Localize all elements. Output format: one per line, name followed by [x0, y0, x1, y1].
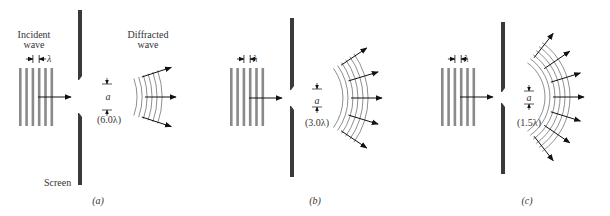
slit-width-label: (3.0λ)	[305, 117, 329, 129]
slit-width-label: (1.5λ)	[517, 117, 541, 129]
incident-wavefront-bar	[19, 68, 22, 126]
incident-wavefront-bar	[236, 68, 239, 126]
incident-wave-label-line2: wave	[23, 39, 45, 50]
diagram-shapes	[19, 10, 584, 185]
slit-width-label: (6.0λ)	[97, 114, 121, 126]
incident-wavefront-bar	[243, 68, 246, 126]
incident-wavefront-bar	[255, 68, 258, 126]
incident-wavefront-bar	[230, 68, 233, 126]
screen-lower	[290, 106, 294, 177]
panel-caption: (b)	[309, 195, 321, 207]
incident-wavefront-bar	[441, 68, 444, 126]
diffracted-wavefront-arc	[334, 68, 343, 127]
diffracted-wave-label-line2: wave	[137, 39, 159, 50]
slit-width-symbol: a	[315, 95, 320, 106]
wavelength-symbol: λ	[46, 53, 52, 64]
wavelength-symbol: λ	[252, 53, 258, 64]
incident-wavefront-bar	[262, 68, 265, 126]
diffracted-direction-arrow	[534, 33, 553, 57]
slit-width-symbol: a	[106, 91, 111, 102]
screen-upper	[501, 22, 505, 92]
incident-wavefront-bar	[249, 68, 252, 126]
screen-lower	[501, 103, 505, 174]
diffraction-figure: Incident wave Diffracted wave Screen (a)…	[0, 0, 610, 216]
screen-upper	[290, 18, 294, 90]
screen-label: Screen	[44, 177, 71, 188]
incident-wavefront-bar	[447, 68, 450, 126]
panel-caption: (a)	[92, 195, 104, 207]
diffracted-direction-arrow	[142, 67, 172, 77]
incident-wavefront-bar	[32, 68, 35, 126]
diffracted-direction-arrow	[142, 117, 172, 127]
diffracted-wavefront-arc	[139, 77, 142, 117]
panel-caption: (c)	[521, 195, 533, 207]
diffracted-wavefront-arc	[134, 79, 137, 116]
screen-upper	[78, 10, 82, 80]
incident-wavefront-bar	[454, 68, 457, 126]
diffracted-direction-arrow	[534, 136, 553, 160]
incident-wavefront-bar	[25, 68, 28, 126]
wavelength-symbol: λ	[463, 53, 469, 64]
slit-width-symbol: a	[527, 92, 532, 103]
screen-lower	[78, 113, 82, 185]
